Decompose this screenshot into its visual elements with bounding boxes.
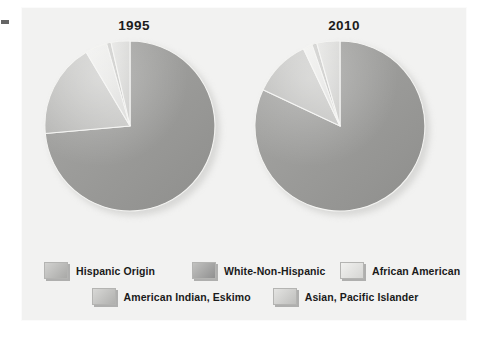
legend-item-white-non-hispanic: White-Non-Hispanic <box>192 262 340 279</box>
chart-legend: Hispanic Origin White-Non-Hispanic Afric… <box>44 260 488 320</box>
legend-label-african-american: African American <box>372 265 460 277</box>
pie-wrap-2010 <box>244 38 444 243</box>
pie-chart-2010: 2010 <box>244 18 444 248</box>
pie-sheen-1995 <box>45 41 215 211</box>
legend-item-american-indian-eskimo: American Indian, Eskimo <box>92 288 251 305</box>
pie-graphic-1995 <box>44 40 216 212</box>
chart-title-2010: 2010 <box>244 18 444 33</box>
legend-swatch-american-indian-eskimo <box>92 288 116 305</box>
legend-label-white-non-hispanic: White-Non-Hispanic <box>224 265 326 277</box>
pie-chart-1995: 1995 <box>34 18 234 248</box>
legend-label-asian-pacific-islander: Asian, Pacific Islander <box>305 291 419 303</box>
pie-svg-1995 <box>44 40 216 212</box>
chart-title-1995: 1995 <box>34 18 234 33</box>
legend-row-1: Hispanic Origin White-Non-Hispanic Afric… <box>44 262 488 279</box>
pie-graphic-2010 <box>254 40 426 212</box>
pie-svg-2010 <box>254 40 426 212</box>
legend-label-hispanic-origin: Hispanic Origin <box>76 265 155 277</box>
legend-swatch-white-non-hispanic <box>192 262 216 279</box>
figure-container: 1995 <box>0 0 488 338</box>
legend-row-2: American Indian, Eskimo Asian, Pacific I… <box>44 288 488 305</box>
legend-swatch-asian-pacific-islander <box>273 288 297 305</box>
pie-sheen-2010 <box>255 41 425 211</box>
legend-swatch-african-american <box>340 262 364 279</box>
chart-panel: 1995 <box>22 8 466 320</box>
legend-item-hispanic-origin: Hispanic Origin <box>44 262 192 279</box>
legend-swatch-hispanic-origin <box>44 262 68 279</box>
legend-item-african-american: African American <box>340 262 488 279</box>
scan-edge-mark <box>1 20 9 24</box>
pie-wrap-1995 <box>34 38 234 243</box>
legend-item-asian-pacific-islander: Asian, Pacific Islander <box>273 288 419 305</box>
legend-label-american-indian-eskimo: American Indian, Eskimo <box>124 291 251 303</box>
